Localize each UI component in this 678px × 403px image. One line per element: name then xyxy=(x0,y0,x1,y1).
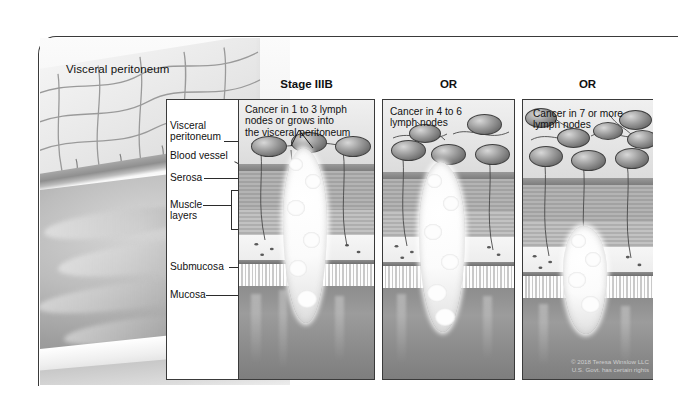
lymph-node xyxy=(529,146,563,167)
panel-4-to-6-nodes xyxy=(382,99,515,380)
panel-1-caption: Cancer in 1 to 3 lymph nodes or grows in… xyxy=(245,104,373,138)
legend-label-muscle-layers: Muscle layers xyxy=(170,199,230,221)
legend-label-blood-vessel: Blood vessel xyxy=(170,150,236,161)
lymph-node xyxy=(391,140,426,161)
panel-stage-iiib xyxy=(238,99,375,380)
leader-serosa xyxy=(204,178,242,179)
panel-2-caption: Cancer in 4 to 6 lymph nodes xyxy=(390,106,512,129)
leader-muscle-layers xyxy=(203,205,231,206)
lymph-node xyxy=(475,144,510,165)
lymph-node xyxy=(615,148,649,169)
lymph-node xyxy=(557,128,590,148)
panel-7-or-more-nodes: © 2018 Teresa Winslow LLC U.S. Govt. has… xyxy=(522,99,653,380)
legend-label-submucosa: Submucosa xyxy=(170,261,238,272)
panel-1-header: Stage IIIB xyxy=(238,78,375,90)
copyright-notice: © 2018 Teresa Winslow LLC U.S. Govt. has… xyxy=(571,358,649,373)
lymph-node xyxy=(571,150,606,171)
panel-3-header: OR xyxy=(522,78,653,90)
legend-label-visceral-peritoneum: Visceral peritoneum xyxy=(170,120,234,142)
muscle-layers-bracket xyxy=(231,190,238,230)
visceral-peritoneum-callout-label: Visceral peritoneum xyxy=(66,63,169,75)
leader-mucosa xyxy=(206,295,242,296)
panel-3-caption: Cancer in 7 or more lymph nodes xyxy=(533,108,653,131)
panel-1-caption-pointer xyxy=(239,100,374,379)
lymph-node xyxy=(627,130,653,149)
panel-2-header: OR xyxy=(382,78,515,90)
